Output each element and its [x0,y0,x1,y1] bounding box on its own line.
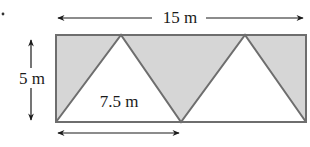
base-label: 7.5 m [100,92,139,111]
height-label: 5 m [19,69,45,88]
bullet-dot [2,13,5,16]
shaded-rectangle-diagram: 15 m 5 m 7.5 m [0,0,310,147]
width-label: 15 m [163,8,197,27]
